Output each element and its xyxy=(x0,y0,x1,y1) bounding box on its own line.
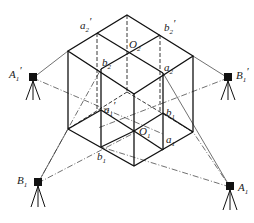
sight-line-B1p-solid xyxy=(193,56,228,78)
label-station-A1: A1 xyxy=(237,181,248,196)
survey-diagram: a2′ b2′ O2 b2 a2 a1′ b1 O1 a1 b1 A1′ B1′… xyxy=(0,0,254,223)
sight-line-A1-to-corner xyxy=(193,132,230,187)
label-station-B1: B1 xyxy=(17,174,27,189)
total-station-icon xyxy=(226,182,234,190)
label-b1: b1 xyxy=(97,150,106,165)
label-station-A1-prime: A1′ xyxy=(8,64,22,83)
station-B1 xyxy=(31,178,45,207)
label-O2: O2 xyxy=(129,38,141,53)
label-b2-prime: b2′ xyxy=(164,17,176,36)
sight-line-A1-to-b1 xyxy=(101,147,230,187)
station-A1 xyxy=(223,182,237,210)
total-station-icon xyxy=(34,178,42,186)
sight-line-B1-to-b2 xyxy=(38,69,101,183)
label-a1: a1 xyxy=(166,133,175,148)
label-a2-prime: a2′ xyxy=(80,15,92,34)
label-b2: b2 xyxy=(102,56,112,71)
station-A1p xyxy=(26,73,40,100)
total-station-icon xyxy=(224,73,232,81)
sight-lines xyxy=(33,51,230,187)
station-B1p xyxy=(221,73,235,100)
sight-line-A1p-solid xyxy=(33,51,68,78)
label-a1-prime: a1′ xyxy=(104,99,116,118)
label-station-B1-prime: B1′ xyxy=(236,65,249,84)
total-station-icon xyxy=(29,73,37,81)
